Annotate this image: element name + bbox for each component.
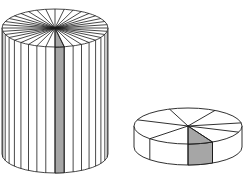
cylinder-diagram <box>0 0 243 179</box>
tall-cylinder <box>2 9 108 173</box>
short-disc <box>134 108 242 165</box>
